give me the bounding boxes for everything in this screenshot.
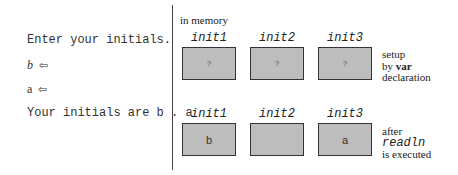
var-label-init2: init2 (249, 107, 305, 121)
memory-cell-init2 (250, 123, 304, 156)
keyword-var: var (396, 60, 412, 72)
memory-label: in memory (180, 14, 228, 26)
memory-cell-init2: ? (250, 47, 304, 80)
memory-cell-init1: b (182, 123, 236, 156)
note-text: by (382, 60, 396, 72)
prompt-line: Enter your initials. (27, 33, 171, 47)
var-label-init1: init1 (181, 107, 237, 121)
enter-key-icon: ⇦ (38, 83, 47, 96)
var-label-init2: init2 (249, 31, 305, 45)
divider-line (172, 5, 173, 170)
input-line-1: b⇦ (27, 58, 48, 73)
input-value: a (27, 82, 32, 96)
input-line-2: a⇦ (27, 82, 47, 97)
note-line: is executed (382, 149, 431, 161)
note-after-readln: after readln is executed (382, 126, 431, 161)
note-line: declaration (382, 72, 431, 84)
memory-cell-init1: ? (182, 47, 236, 80)
enter-key-icon: ⇦ (39, 59, 48, 72)
memory-cell-init3: a (318, 123, 372, 156)
result-line: Your initials are b . a (27, 106, 193, 120)
input-value: b (27, 58, 33, 72)
var-label-init3: init3 (317, 107, 373, 121)
var-label-init3: init3 (317, 31, 373, 45)
memory-cell-init3: ? (318, 47, 372, 80)
var-label-init1: init1 (181, 31, 237, 45)
note-setup: setup by var declaration (382, 49, 431, 84)
